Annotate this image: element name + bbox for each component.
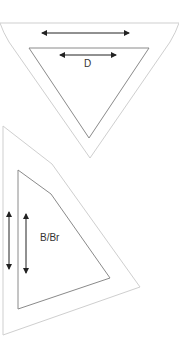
top-piece-label: D: [84, 58, 91, 69]
bottom-inner-outline: [18, 170, 110, 309]
bottom-piece-label: B/Br: [40, 232, 60, 243]
bottom-outer-outline: [3, 126, 140, 335]
pattern-diagram: D B/Br: [0, 0, 179, 348]
top-piece: D: [0, 23, 179, 158]
bottom-piece: B/Br: [3, 126, 140, 335]
